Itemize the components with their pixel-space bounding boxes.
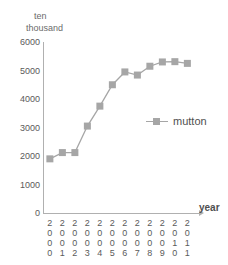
data-point-marker <box>109 81 116 88</box>
x-axis-tick-label: 2008 <box>144 218 156 258</box>
y-axis-tick-label: 5000 <box>0 67 40 76</box>
data-point-marker <box>171 58 178 65</box>
x-axis-title: year <box>199 203 220 213</box>
data-point-marker <box>159 58 166 65</box>
y-axis-tick-label: 0 <box>0 209 40 218</box>
y-axis-tick-label: 4000 <box>0 95 40 104</box>
x-axis-tick-label: 2005 <box>106 218 118 258</box>
legend-label-mutton: mutton <box>173 116 207 127</box>
data-point-marker <box>134 72 141 79</box>
x-axis-tick-label: 2006 <box>119 218 131 258</box>
x-axis-tick-label: 2003 <box>81 218 93 258</box>
legend-marker-mutton <box>146 116 168 127</box>
data-point-marker <box>121 68 128 75</box>
y-axis-tick-label: 3000 <box>0 124 40 133</box>
series-line <box>50 62 188 159</box>
data-point-marker <box>184 60 191 67</box>
y-axis-tick-label: 2000 <box>0 152 40 161</box>
x-axis-tick-label: 2011 <box>181 218 193 258</box>
data-point-marker <box>46 155 53 162</box>
x-axis-tick-label: 2000 <box>44 218 56 258</box>
y-axis-unit-line-1: ten <box>34 11 47 22</box>
x-axis-tick-label: 2007 <box>131 218 143 258</box>
x-axis-tick-label: 2002 <box>69 218 81 258</box>
x-axis-tick-label: 2009 <box>156 218 168 258</box>
y-axis-line <box>43 42 44 214</box>
data-point-marker <box>146 63 153 70</box>
x-axis-line <box>43 213 201 214</box>
legend-square-icon <box>153 118 160 125</box>
x-axis-tick-label: 2001 <box>56 218 68 258</box>
chart-legend: mutton <box>146 116 207 127</box>
y-axis-unit-line-2: thousand <box>26 23 63 34</box>
x-axis-tick-label: 2004 <box>94 218 106 258</box>
y-axis-tick-label: 1000 <box>0 181 40 190</box>
data-point-marker <box>71 149 78 156</box>
data-point-marker <box>96 103 103 110</box>
y-axis-tick-label: 6000 <box>0 38 40 47</box>
line-chart: ten thousand 0100020003000400050006000 2… <box>0 0 228 265</box>
data-point-marker <box>59 149 66 156</box>
data-point-marker <box>84 123 91 130</box>
x-axis-tick-label: 2010 <box>169 218 181 258</box>
